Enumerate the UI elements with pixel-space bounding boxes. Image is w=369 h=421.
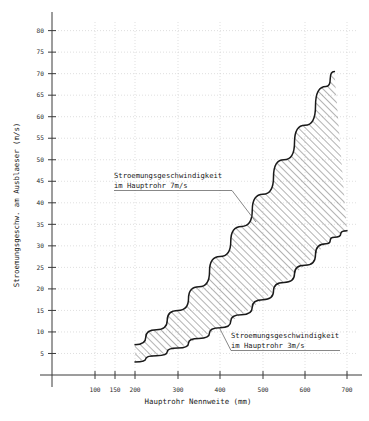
y-tick-label: 30 [37,242,45,249]
velocity-chart: 5101520253035404550556065707580100150200… [0,0,369,421]
y-tick-label: 70 [37,70,45,77]
y-axis-title: Stroemungsgeschw. am Ausblaeser (m/s) [12,123,21,288]
y-tick-label: 50 [37,156,45,163]
annotation-upper-line1: Stroemungsgeschwindigkeit [114,171,222,180]
y-tick-label: 75 [37,48,45,55]
x-tick-label: 300 [172,386,183,393]
y-tick-label: 25 [37,264,45,271]
annotation-lower-line1: Stroemungsgeschwindigkeit [231,331,339,340]
x-tick-label: 400 [214,386,225,393]
y-tick-label: 10 [37,328,45,335]
y-tick-label: 15 [37,307,45,314]
x-tick-label: 200 [129,386,140,393]
annotation-lower-line2: im Hauptrohr 3m/s [231,341,305,350]
x-axis-title: Hauptrohr Nennweite (mm) [145,397,252,406]
x-tick-label: 150 [109,386,120,393]
y-tick-label: 65 [37,91,45,98]
y-tick-label: 5 [40,350,44,357]
annotation-upper-line2: im Hauptrohr 7m/s [114,181,188,190]
x-tick-label: 100 [89,386,100,393]
chart-container: 5101520253035404550556065707580100150200… [0,0,369,421]
y-tick-label: 20 [37,285,45,292]
y-tick-label: 55 [37,134,45,141]
x-tick-label: 600 [299,386,310,393]
y-tick-label: 40 [37,199,45,206]
x-tick-label: 700 [341,386,352,393]
y-tick-label: 35 [37,221,45,228]
y-tick-label: 60 [37,113,45,120]
y-tick-label: 80 [37,27,45,34]
y-tick-label: 45 [37,177,45,184]
x-tick-label: 500 [257,386,268,393]
